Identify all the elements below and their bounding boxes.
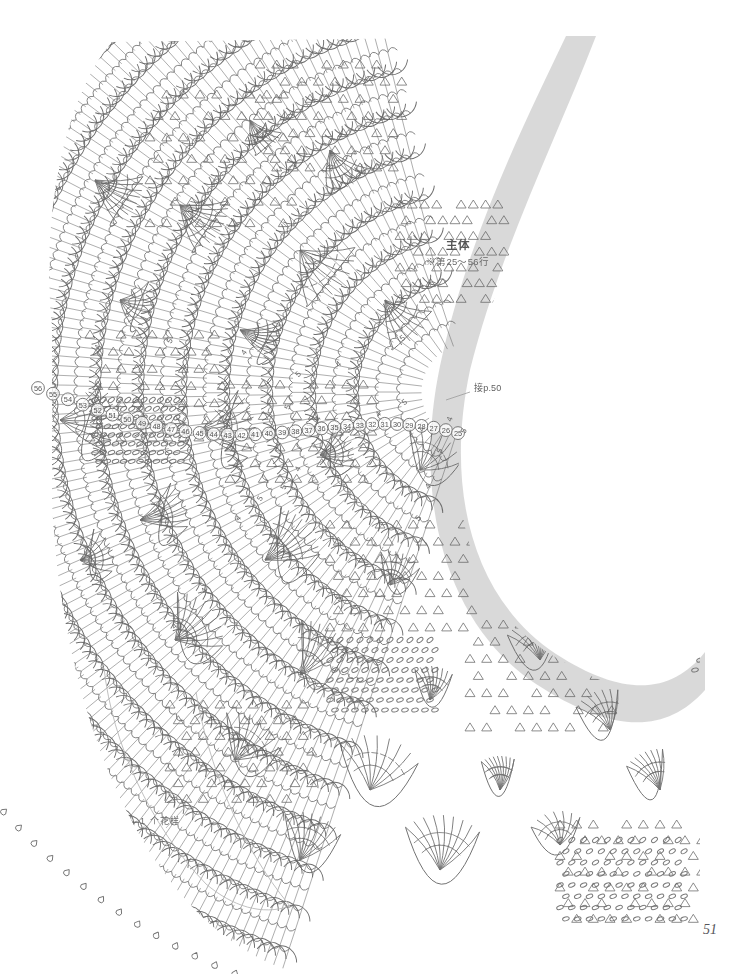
svg-text:56: 56 [34,384,42,393]
svg-text:52: 52 [94,406,102,415]
svg-text:5: 5 [255,494,265,503]
row-number-marker: 47 [165,423,178,436]
svg-text:4: 4 [233,513,243,523]
row-number-marker: 37 [302,423,315,436]
row-number-marker: 52 [91,403,104,416]
svg-text:32: 32 [368,420,376,429]
chart-subtitle: ※第25〜56行 [84,254,747,268]
row-number-marker: 50 [121,413,134,426]
row-number-marker: 55 [47,387,60,400]
pattern-repeat-note: 1 个花样 [140,814,180,827]
svg-text:36: 36 [317,424,325,433]
svg-text:53: 53 [79,401,87,410]
svg-text:31: 31 [381,420,389,429]
svg-text:44: 44 [210,430,218,439]
row-number-marker: 30 [391,418,404,431]
row-number-marker: 39 [276,426,289,439]
svg-text:26: 26 [442,426,450,435]
row-number-marker: 31 [378,417,391,430]
row-number-marker: 49 [136,416,149,429]
row-number-marker: 44 [207,428,220,441]
svg-text:55: 55 [49,390,57,399]
row-number-marker: 40 [262,427,275,440]
row-number-marker: 42 [235,428,248,441]
svg-text:40: 40 [265,429,273,438]
row-number-marker: 48 [150,420,163,433]
svg-text:50: 50 [123,415,131,424]
svg-text:42: 42 [237,431,245,440]
row-number-marker: 27 [427,421,440,434]
svg-text:30: 30 [393,420,401,429]
svg-text:51: 51 [108,411,116,420]
svg-text:43: 43 [224,431,232,440]
row-number-marker: 46 [179,425,192,438]
svg-text:39: 39 [278,428,286,437]
svg-text:49: 49 [138,419,146,428]
row-number-marker: 51 [106,408,119,421]
svg-text:4: 4 [293,464,303,473]
row-number-marker: 54 [62,393,75,406]
svg-text:35: 35 [330,423,338,432]
svg-text:29: 29 [405,421,413,430]
row-number-marker: 29 [403,418,416,431]
chart-page: 5655545352515049484746454443424140393837… [0,0,747,974]
svg-text:46: 46 [181,427,189,436]
row-number-marker: 56 [32,382,45,395]
row-number-marker: 32 [366,418,379,431]
row-number-marker: 41 [249,428,262,441]
row-number-marker: 43 [221,428,234,441]
svg-text:33: 33 [356,421,364,430]
chart-title: 主体 [84,236,747,252]
svg-text:37: 37 [304,426,312,435]
svg-text:47: 47 [167,425,175,434]
row-number-marker: 36 [315,422,328,435]
crochet-diagram: 5655545352515049484746454443424140393837… [0,0,747,974]
row-number-marker: 35 [328,421,341,434]
svg-text:54: 54 [64,395,72,404]
row-number-marker: 33 [353,418,366,431]
page-number: 51 [703,922,717,938]
join-edge-band [430,36,705,722]
join-reference-note: 接p.50 [474,381,502,394]
row-number-marker: 53 [76,398,89,411]
svg-text:27: 27 [430,424,438,433]
row-number-markers: 5655545352515049484746454443424140393837… [32,382,465,441]
svg-text:41: 41 [251,430,259,439]
svg-text:5: 5 [283,403,293,411]
row-number-marker: 38 [289,425,302,438]
svg-text:38: 38 [291,427,299,436]
svg-text:45: 45 [195,429,203,438]
row-number-marker: 26 [440,424,453,437]
svg-text:48: 48 [152,422,160,431]
svg-text:4: 4 [239,348,249,357]
row-number-marker: 45 [193,427,206,440]
